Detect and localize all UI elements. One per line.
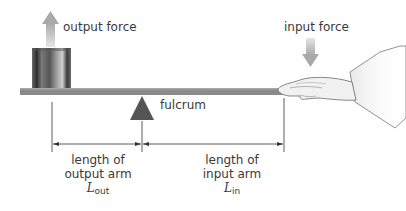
input-arm-variable: Lin <box>190 181 274 198</box>
input-arm-label: length of input arm Lin <box>190 153 274 198</box>
output-arm-label: length of output arm Lout <box>56 153 140 198</box>
output-force-label: output force <box>63 20 137 34</box>
output-arm-variable: Lout <box>56 181 140 198</box>
fulcrum-triangle <box>130 96 154 120</box>
input-force-arrow <box>302 38 319 67</box>
hand-icon <box>278 46 406 128</box>
output-force-arrow <box>42 11 59 47</box>
load-cylinder <box>32 48 71 89</box>
fulcrum-label: fulcrum <box>160 98 206 112</box>
input-force-label: input force <box>284 20 349 34</box>
